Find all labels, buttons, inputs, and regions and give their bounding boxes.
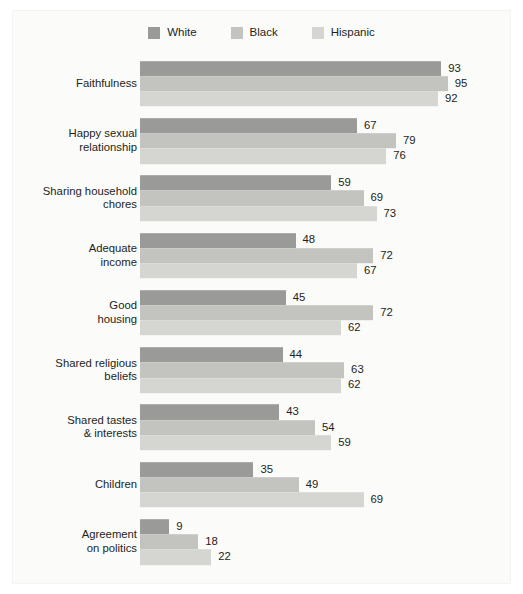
category-label: Shared tastes& interests: [13, 414, 137, 441]
bar-white[interactable]: [140, 462, 253, 477]
bar-row: 59: [140, 435, 510, 450]
bar-white[interactable]: [140, 405, 279, 420]
category-label-line: Adequate: [13, 242, 137, 256]
category-label-line: Sharing household: [13, 185, 137, 199]
bar-hispanic[interactable]: [140, 492, 364, 507]
bar-row: 72: [140, 248, 510, 263]
bar-value-label: 45: [293, 292, 306, 303]
category-label: Happy sexualrelationship: [13, 127, 137, 154]
bar-hispanic[interactable]: [140, 206, 377, 221]
category-label-line: chores: [13, 198, 137, 212]
legend-item-white: White: [148, 27, 196, 39]
bar-group: Happy sexualrelationship677976: [13, 112, 510, 169]
bar-black[interactable]: [140, 363, 344, 378]
bar-group: Sharing householdchores596973: [13, 170, 510, 227]
category-label: Children: [13, 478, 137, 492]
bar-group: Agreementon politics91822: [13, 513, 510, 570]
bar-value-label: 49: [306, 479, 319, 490]
bar-value-label: 73: [384, 208, 397, 219]
bar-row: 44: [140, 347, 510, 362]
bar-row: 93: [140, 61, 510, 76]
bar-white[interactable]: [140, 290, 286, 305]
category-label: Agreementon politics: [13, 528, 137, 555]
chart-legend: White Black Hispanic: [13, 27, 510, 39]
category-label-line: beliefs: [13, 370, 137, 384]
bar-stack: 677976: [140, 118, 510, 164]
bar-value-label: 79: [403, 135, 416, 146]
legend-swatch-hispanic: [312, 27, 324, 39]
bar-group: Adequateincome487267: [13, 227, 510, 284]
bar-row: 79: [140, 133, 510, 148]
bar-white[interactable]: [140, 519, 169, 534]
category-label-line: Children: [13, 478, 137, 492]
category-label-line: income: [13, 256, 137, 270]
bar-stack: 435459: [140, 405, 510, 451]
bar-chart-plot: Faithfulness939592Happy sexualrelationsh…: [13, 55, 510, 571]
bar-row: 69: [140, 492, 510, 507]
bar-white[interactable]: [140, 233, 296, 248]
bar-black[interactable]: [140, 133, 396, 148]
bar-stack: 596973: [140, 175, 510, 221]
bar-value-label: 67: [364, 265, 377, 276]
bar-white[interactable]: [140, 118, 357, 133]
legend-item-black: Black: [231, 27, 278, 39]
category-label: Goodhousing: [13, 299, 137, 326]
bar-hispanic[interactable]: [140, 91, 438, 106]
bar-value-label: 92: [445, 93, 458, 104]
legend-label-black: Black: [250, 27, 278, 39]
category-label-line: relationship: [13, 141, 137, 155]
bar-group: Children354969: [13, 456, 510, 513]
category-label-line: Shared religious: [13, 357, 137, 371]
bar-value-label: 44: [290, 349, 303, 360]
bar-white[interactable]: [140, 175, 331, 190]
bar-row: 59: [140, 175, 510, 190]
bar-stack: 939592: [140, 61, 510, 107]
bar-value-label: 76: [393, 150, 406, 161]
bar-value-label: 67: [364, 120, 377, 131]
bar-row: 67: [140, 118, 510, 133]
bar-stack: 457262: [140, 290, 510, 336]
bar-value-label: 62: [348, 380, 361, 391]
bar-black[interactable]: [140, 534, 198, 549]
bar-white[interactable]: [140, 61, 441, 76]
bar-black[interactable]: [140, 477, 299, 492]
bar-black[interactable]: [140, 191, 364, 206]
bar-row: 43: [140, 405, 510, 420]
category-label: Sharing householdchores: [13, 185, 137, 212]
bar-black[interactable]: [140, 76, 448, 91]
legend-item-hispanic: Hispanic: [312, 27, 375, 39]
bar-hispanic[interactable]: [140, 550, 211, 565]
bar-white[interactable]: [140, 347, 283, 362]
bar-value-label: 69: [371, 494, 384, 505]
category-label-line: Faithfulness: [13, 77, 137, 91]
bar-group: Shared tastes& interests435459: [13, 399, 510, 456]
category-label-line: Good: [13, 299, 137, 313]
bar-black[interactable]: [140, 420, 315, 435]
category-label-line: housing: [13, 313, 137, 327]
bar-row: 48: [140, 233, 510, 248]
bar-stack: 446362: [140, 347, 510, 393]
bar-row: 62: [140, 378, 510, 393]
bar-hispanic[interactable]: [140, 435, 331, 450]
bar-row: 72: [140, 305, 510, 320]
legend-swatch-black: [231, 27, 243, 39]
category-label: Adequateincome: [13, 242, 137, 269]
category-label: Shared religiousbeliefs: [13, 357, 137, 384]
bar-black[interactable]: [140, 305, 373, 320]
bar-row: 45: [140, 290, 510, 305]
bar-hispanic[interactable]: [140, 320, 341, 335]
bar-hispanic[interactable]: [140, 149, 386, 164]
bar-black[interactable]: [140, 248, 373, 263]
bar-row: 18: [140, 534, 510, 549]
bar-value-label: 59: [338, 177, 351, 188]
category-label-line: on politics: [13, 542, 137, 556]
bar-hispanic[interactable]: [140, 378, 341, 393]
bar-value-label: 59: [338, 437, 351, 448]
bar-row: 22: [140, 550, 510, 565]
bar-stack: 487267: [140, 233, 510, 279]
bar-row: 9: [140, 519, 510, 534]
bar-row: 49: [140, 477, 510, 492]
chart-panel: White Black Hispanic Faithfulness939592H…: [13, 11, 510, 583]
category-label: Faithfulness: [13, 77, 137, 91]
bar-hispanic[interactable]: [140, 263, 357, 278]
